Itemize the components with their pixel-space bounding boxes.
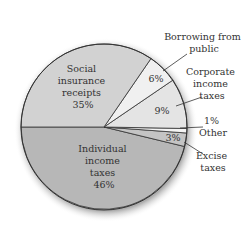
pct-borrowing: 6% bbox=[148, 73, 163, 84]
label-corporate: Corporate income taxes bbox=[186, 66, 238, 101]
label-borrowing: Borrowing from public bbox=[164, 31, 244, 54]
label-other: 1% Other bbox=[199, 115, 227, 138]
label-excise: Excise taxes bbox=[196, 150, 230, 173]
pct-corporate: 9% bbox=[154, 105, 169, 116]
pie-chart: Social insurance receipts 35% Individual… bbox=[0, 0, 250, 229]
pct-excise: 3% bbox=[165, 132, 180, 143]
